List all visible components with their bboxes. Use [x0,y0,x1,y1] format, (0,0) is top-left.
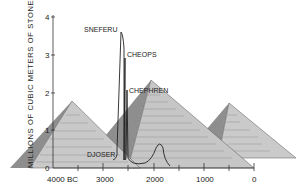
y-tick-4: 4 [45,13,50,22]
pyramid-stone-chart: 4 3 2 1 0 4000 BC 3000 2000 1000 0 MILLI… [0,0,305,193]
x-tick-1000: 1000 [196,175,214,184]
label-sneferu: SNEFERU [84,26,117,33]
x-tick-2000: 2000 [146,175,164,184]
y-tick-2: 2 [45,89,50,98]
y-axis-label: MILLIONS OF CUBIC METERS OF STONE [26,0,35,168]
label-djoser: DJOSER [87,151,115,158]
x-tick-4000bc: 4000 BC [47,175,78,184]
label-chephren: CHEPHREN [129,87,168,94]
x-tick-3000: 3000 [96,175,114,184]
label-cheops: CHEOPS [127,51,157,58]
y-tick-3: 3 [45,51,50,60]
x-tick-0: 0 [252,175,257,184]
y-tick-1: 1 [45,126,50,135]
y-tick-0: 0 [45,164,50,173]
